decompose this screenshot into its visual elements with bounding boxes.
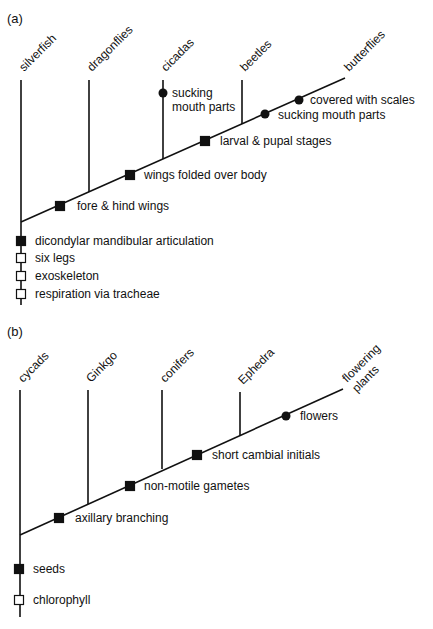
cladogram-canvas: (a)silverfishdragonfliescicadasbeetlesbu… (0, 0, 433, 629)
character-dot-icon (261, 110, 270, 119)
ancestral-character-square-icon (17, 272, 26, 281)
taxon-label: Ephedra (235, 345, 277, 387)
character-label: chlorophyll (33, 593, 90, 607)
character-label: short cambial initials (212, 448, 320, 462)
character-dot-icon (295, 96, 304, 105)
main-lineage-line (20, 389, 343, 535)
derived-character-square-icon (201, 137, 210, 146)
panel-b-plants: (b)cycadsGinkgoconifersEphedrafloweringp… (7, 324, 383, 617)
character-label: respiration via tracheae (35, 287, 160, 301)
ancestral-character-square-icon (15, 596, 24, 605)
character-dot-icon (159, 89, 168, 98)
derived-character-square-icon (55, 514, 64, 523)
cladogram-figure: (a)silverfishdragonfliescicadasbeetlesbu… (0, 0, 433, 629)
derived-character-square-icon (56, 202, 65, 211)
panel-label: (a) (7, 11, 23, 26)
character-label: exoskeleton (35, 269, 99, 283)
panel-a-insects: (a)silverfishdragonfliescicadasbeetlesbu… (7, 11, 415, 305)
character-dot-icon (282, 412, 291, 421)
character-label: wings folded over body (143, 168, 267, 182)
derived-character-square-icon (126, 482, 135, 491)
taxon-label: silverfish (16, 31, 59, 74)
character-label: axillary branching (75, 511, 168, 525)
character-label: seeds (33, 562, 65, 576)
derived-character-square-icon (193, 451, 202, 460)
derived-character-square-icon (15, 565, 24, 574)
character-label: non-motile gametes (144, 479, 249, 493)
ancestral-character-square-icon (17, 254, 26, 263)
taxon-label: Ginkgo (83, 348, 120, 385)
panel-label: (b) (7, 324, 23, 339)
taxon-label: cicadas (158, 35, 197, 74)
character-label: flowers (300, 409, 338, 423)
taxon-label: cycads (15, 349, 51, 385)
character-label: larval & pupal stages (220, 134, 331, 148)
ancestral-character-square-icon (17, 290, 26, 299)
taxon-label: beetles (237, 37, 274, 74)
taxon-label: conifers (157, 346, 197, 386)
taxon-label: butterflies (341, 27, 388, 74)
character-label: mouth parts (172, 100, 235, 114)
character-label: six legs (35, 251, 75, 265)
character-label: dicondylar mandibular articulation (35, 234, 214, 248)
character-label: covered with scales (310, 93, 415, 107)
derived-character-square-icon (17, 237, 26, 246)
taxon-label: dragonflies (84, 23, 135, 74)
character-label: sucking mouth parts (278, 108, 385, 122)
character-label: fore & hind wings (77, 199, 169, 213)
derived-character-square-icon (126, 171, 135, 180)
character-label: sucking (172, 86, 213, 100)
